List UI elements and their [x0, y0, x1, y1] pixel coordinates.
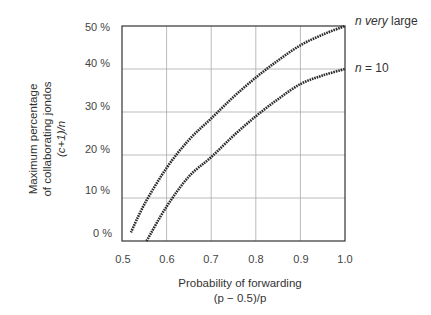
y-axis-label-line-2: of collaborating jondos	[40, 54, 54, 224]
series-n-very-large	[131, 26, 345, 232]
x-tick-0.7: 0.7	[196, 253, 226, 265]
y-tick-20: 20 %	[70, 143, 110, 155]
x-tick-0.8: 0.8	[241, 253, 271, 265]
y-tick-30: 30 %	[70, 100, 110, 112]
x-tick-0.5: 0.5	[108, 253, 138, 265]
x-axis-label: Probability of forwarding (p − 0.5)/p	[160, 276, 320, 306]
legend-n-very-large-rest: large	[388, 14, 418, 28]
plot-frame	[122, 26, 345, 241]
y-axis-label: Maximum percentage of collaborating jond…	[26, 54, 68, 224]
y-axis-label-line-3: (c+1)/n	[54, 54, 68, 224]
legend-n-10: n = 10	[355, 61, 389, 75]
y-tick-0: 0 %	[72, 227, 112, 239]
x-axis-label-line-1: Probability of forwarding	[160, 276, 320, 291]
legend-n-very-large: n very large	[355, 14, 418, 28]
grid-lines	[122, 26, 345, 241]
y-tick-10: 10 %	[70, 184, 110, 196]
legend-n-10-italic: n	[355, 61, 362, 75]
y-tick-40: 40 %	[70, 57, 110, 69]
legend-n-very-large-italic: n very	[355, 14, 388, 28]
legend-n-10-rest: = 10	[362, 61, 389, 75]
y-tick-50: 50 %	[70, 21, 110, 33]
x-tick-1.0: 1.0	[330, 253, 360, 265]
x-tick-0.9: 0.9	[286, 253, 316, 265]
x-axis-label-line-2: (p − 0.5)/p	[160, 291, 320, 306]
x-tick-0.6: 0.6	[152, 253, 182, 265]
y-axis-label-line-1: Maximum percentage	[26, 54, 40, 224]
